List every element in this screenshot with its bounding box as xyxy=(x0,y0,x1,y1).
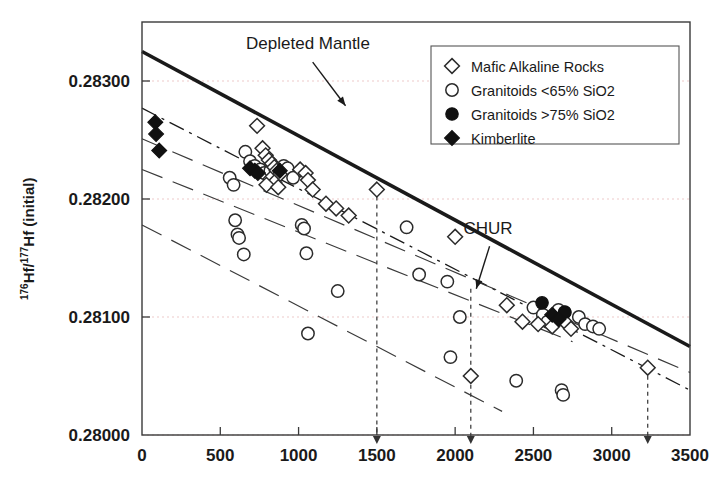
point-filled-circle xyxy=(536,297,548,309)
legend-item-label-3: Kimberlite xyxy=(471,131,535,147)
y-tick-label-0: 0.28000 xyxy=(69,426,130,445)
point-open-circle xyxy=(446,84,458,96)
point-open-circle xyxy=(441,275,453,287)
point-open-circle xyxy=(238,248,250,260)
y-axis-title-tail: Hf (initial) xyxy=(20,177,37,246)
point-open-circle xyxy=(227,179,239,191)
y-axis-title: 176Hf/177Hf (initial) xyxy=(19,177,37,300)
y-tick-label-1: 0.28100 xyxy=(69,308,130,327)
x-tick-label-1: 500 xyxy=(206,446,234,465)
x-tick-label-7: 3500 xyxy=(671,446,709,465)
point-filled-circle xyxy=(446,108,458,120)
point-open-circle xyxy=(593,323,605,335)
legend-item-2[interactable]: Granitoids >75% SiO2 xyxy=(446,107,615,123)
y-tick-label-2: 0.28200 xyxy=(69,190,130,209)
point-open-circle xyxy=(233,232,245,244)
chart-container: 0500100015002000250030003500 0.280000.28… xyxy=(0,0,715,494)
point-open-circle xyxy=(413,268,425,280)
x-tick-label-0: 0 xyxy=(137,446,146,465)
point-open-circle xyxy=(444,351,456,363)
legend-item-label-0: Mafic Alkaline Rocks xyxy=(471,59,604,75)
point-open-circle xyxy=(557,389,569,401)
x-tick-label-6: 3000 xyxy=(593,446,631,465)
chur-label: CHUR xyxy=(463,219,512,238)
point-open-circle xyxy=(229,214,241,226)
point-open-circle xyxy=(300,247,312,259)
depleted-mantle-label: Depleted Mantle xyxy=(246,34,370,53)
point-open-circle xyxy=(400,221,412,233)
point-open-circle xyxy=(332,285,344,297)
legend-item-label-2: Granitoids >75% SiO2 xyxy=(471,107,615,123)
x-tick-label-3: 1500 xyxy=(358,446,396,465)
point-open-circle xyxy=(302,327,314,339)
x-tick-label-5: 2500 xyxy=(515,446,553,465)
y-axis-title-sup-176: 176 xyxy=(19,283,30,300)
legend-item-1[interactable]: Granitoids <65% SiO2 xyxy=(446,83,615,99)
hf-isotope-evolution-chart: 0500100015002000250030003500 0.280000.28… xyxy=(0,0,715,494)
y-axis-title-hf-slash: Hf/ xyxy=(20,262,37,283)
y-axis-title-sup-177: 177 xyxy=(19,246,30,263)
x-tick-label-2: 1000 xyxy=(280,446,318,465)
svg-text:176Hf/177Hf (initial): 176Hf/177Hf (initial) xyxy=(19,177,37,300)
point-open-circle xyxy=(510,375,522,387)
point-open-circle xyxy=(454,311,466,323)
legend: Mafic Alkaline RocksGranitoids <65% SiO2… xyxy=(431,46,679,147)
x-tick-label-4: 2000 xyxy=(436,446,474,465)
legend-item-label-1: Granitoids <65% SiO2 xyxy=(471,83,615,99)
y-tick-label-3: 0.28300 xyxy=(69,72,130,91)
point-open-circle xyxy=(298,222,310,234)
